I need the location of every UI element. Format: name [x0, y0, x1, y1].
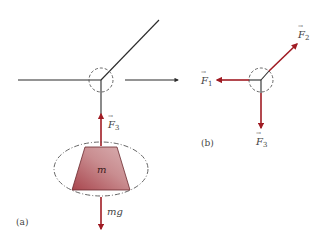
f2-arrow — [269, 44, 297, 71]
weight-text: mg — [107, 206, 123, 217]
diagonal-rope — [101, 20, 159, 80]
f2-name: F — [298, 30, 305, 40]
f1-sub: 1 — [208, 80, 212, 88]
panel-label-a: (a) — [16, 217, 28, 227]
label-weight: mg — [107, 207, 123, 217]
f3-b-sub: 3 — [263, 141, 267, 149]
panel-a — [18, 20, 159, 229]
f2-sub: 2 — [305, 34, 309, 42]
free-body-diagram — [0, 0, 321, 240]
mass-label: m — [97, 164, 106, 175]
panel-b — [217, 44, 297, 128]
f3-b-name: F — [256, 137, 263, 147]
label-f3-a: F3 — [108, 120, 119, 132]
stub-diag — [261, 71, 269, 80]
f3-a-sub: 3 — [115, 124, 119, 132]
label-f3-b: F3 — [256, 137, 267, 149]
label-f2: F2 — [298, 30, 309, 42]
f3-a-name: F — [108, 120, 115, 130]
label-f1: F1 — [201, 76, 212, 88]
f1-name: F — [201, 76, 208, 86]
panel-label-b: (b) — [201, 138, 214, 148]
